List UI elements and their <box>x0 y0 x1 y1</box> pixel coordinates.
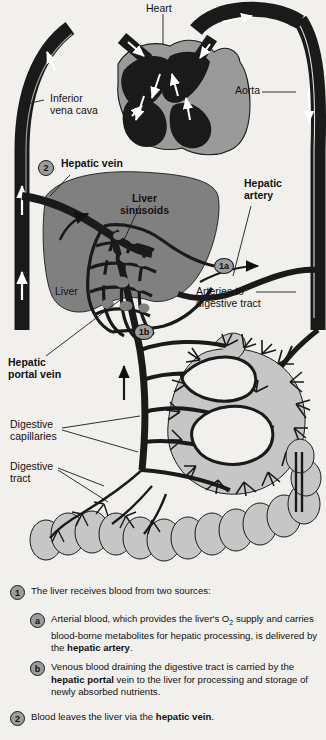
anatomy-illustration <box>0 0 326 575</box>
label-inferior-vena-cava: Inferior vena cava <box>50 93 98 116</box>
label-hepatic-artery: Hepatic artery <box>244 178 282 201</box>
caption-text-2: Blood leaves the liver via the hepatic v… <box>31 711 316 724</box>
diagram-marker-1b: 1b <box>134 324 154 340</box>
caption-item-1: 1 The liver receives blood from two sour… <box>10 585 320 600</box>
label-heart: Heart <box>146 3 172 15</box>
label-liver: Liver <box>55 286 78 298</box>
hepatic-portal-circulation-figure: Heart Inferior vena cava Aorta Hepatic v… <box>0 0 326 575</box>
caption-item-b: b Venous blood draining the digestive tr… <box>30 661 326 699</box>
label-aorta: Aorta <box>235 85 260 97</box>
diagram-marker-2: 2 <box>38 160 54 176</box>
caption-badge-a: a <box>30 613 45 628</box>
heart-organ <box>118 38 250 155</box>
label-arteries-to-digestive-tract: Arteries to digestive tract <box>196 286 261 309</box>
label-hepatic-vein: Hepatic vein <box>61 158 123 170</box>
label-hepatic-portal-vein: Hepatic portal vein <box>8 357 61 380</box>
caption-badge-2: 2 <box>10 711 25 726</box>
caption-badge-1: 1 <box>10 585 25 600</box>
diagram-marker-1a: 1a <box>214 258 234 274</box>
label-liver-sinusoids: Liver sinusoids <box>120 193 169 216</box>
caption-text-1: The liver receives blood from two source… <box>31 585 316 598</box>
caption-item-2: 2 Blood leaves the liver via the hepatic… <box>10 711 320 726</box>
caption-block: 1 The liver receives blood from two sour… <box>0 575 326 740</box>
label-digestive-tract: Digestive tract <box>10 461 53 484</box>
caption-badge-b: b <box>30 661 45 676</box>
caption-text-a: Arterial blood, which provides the liver… <box>51 613 323 655</box>
caption-text-b: Venous blood draining the digestive trac… <box>51 661 323 699</box>
label-digestive-capillaries: Digestive capillaries <box>10 419 57 442</box>
caption-item-a: a Arterial blood, which provides the liv… <box>30 613 326 655</box>
